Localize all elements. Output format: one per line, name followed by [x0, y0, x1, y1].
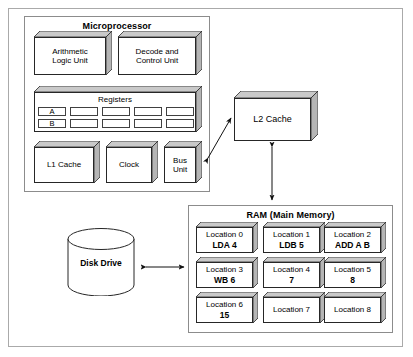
- bus-unit-label-line1: Bus: [171, 156, 189, 165]
- ram-cell[interactable]: Location 4 7: [263, 257, 325, 288]
- decode-control-label-line1: Decode and: [133, 47, 180, 56]
- disk-drive-label: Disk Drive: [67, 258, 135, 268]
- ram-cell-location: Location 8: [332, 305, 373, 314]
- ram-cell-value: 8: [348, 275, 357, 285]
- register-cell[interactable]: [102, 119, 130, 128]
- ram-cell-face: Location 2 ADD A B: [324, 227, 381, 253]
- register-cell[interactable]: [70, 119, 98, 128]
- alu-label-line2: Logic Unit: [50, 56, 90, 65]
- ram-cell-location: Location 0: [204, 230, 245, 239]
- ram-cell[interactable]: Location 6 15: [196, 292, 258, 323]
- l2-cache-label: L2 Cache: [251, 114, 294, 125]
- register-cell-b[interactable]: B: [38, 119, 66, 128]
- ram-cell-location: Location 6: [204, 300, 245, 309]
- ram-cell[interactable]: Location 2 ADD A B: [324, 222, 386, 253]
- ram-cell-value: LDB 5: [277, 240, 306, 250]
- alu-block-face: Arithmetic Logic Unit: [34, 37, 106, 75]
- registers-block: Registers A B: [34, 86, 202, 132]
- register-cell[interactable]: [70, 107, 98, 116]
- register-cell[interactable]: [134, 119, 162, 128]
- bus-unit-block-face: Bus Unit: [164, 147, 196, 183]
- ram-cell-face: Location 1 LDB 5: [263, 227, 320, 253]
- ram-cell-face: Location 4 7: [263, 262, 320, 288]
- l1-cache-block-face: L1 Cache: [34, 147, 94, 183]
- l1-cache-block: L1 Cache: [34, 141, 100, 183]
- ram-cell[interactable]: Location 3 WB 6: [196, 257, 258, 288]
- ram-cell-face: Location 7: [263, 297, 320, 323]
- ram-cell-location: Location 5: [332, 265, 373, 274]
- ram-cell-location: Location 1: [271, 230, 312, 239]
- ram-cell-location: Location 7: [271, 305, 312, 314]
- ram-cell[interactable]: Location 7: [263, 292, 325, 323]
- ram-cell[interactable]: Location 5 8: [324, 257, 386, 288]
- bus-unit-block: Bus Unit: [164, 141, 202, 183]
- ram-cell-value: WB 6: [212, 275, 237, 285]
- ram-cell-value: LDA 4: [210, 240, 238, 250]
- registers-title: Registers: [96, 95, 134, 104]
- disk-drive: Disk Drive: [67, 228, 135, 296]
- ram-cell[interactable]: Location 1 LDB 5: [263, 222, 325, 253]
- ram-cell-face: Location 3 WB 6: [196, 262, 253, 288]
- l2-cache-block-face: L2 Cache: [234, 98, 311, 141]
- ram-cell-value: 15: [218, 310, 231, 320]
- ram-cell[interactable]: Location 8: [324, 292, 386, 323]
- l1-cache-label: L1 Cache: [45, 160, 83, 169]
- l2-cache-block: L2 Cache: [234, 91, 318, 141]
- ram-cell-location: Location 2: [332, 230, 373, 239]
- decode-control-block-face: Decode and Control Unit: [118, 37, 196, 75]
- ram-title: RAM (Main Memory): [189, 210, 392, 220]
- diagram-canvas: Microprocessor Arithmetic Logic Unit Dec…: [0, 0, 413, 357]
- ram-cell-face: Location 5 8: [324, 262, 381, 288]
- ram-cell-face: Location 8: [324, 297, 381, 323]
- register-cell-a[interactable]: A: [38, 107, 66, 116]
- ram-cell-value: ADD A B: [333, 240, 372, 250]
- bus-unit-label-line2: Unit: [171, 165, 189, 174]
- register-cell[interactable]: [166, 119, 194, 128]
- ram-cell-face: Location 0 LDA 4: [196, 227, 253, 253]
- register-cell[interactable]: [166, 107, 194, 116]
- ram-cell-location: Location 4: [271, 265, 312, 274]
- clock-label: Clock: [117, 160, 141, 169]
- ram-cell-value: 7: [287, 275, 296, 285]
- decode-control-block: Decode and Control Unit: [118, 31, 202, 75]
- clock-block-face: Clock: [106, 147, 152, 183]
- ram-cell-face: Location 6 15: [196, 297, 253, 323]
- ram-cell-location: Location 3: [204, 265, 245, 274]
- microprocessor-title: Microprocessor: [25, 21, 209, 31]
- decode-control-label-line2: Control Unit: [134, 56, 180, 65]
- alu-block: Arithmetic Logic Unit: [34, 31, 112, 75]
- ram-cell[interactable]: Location 0 LDA 4: [196, 222, 258, 253]
- alu-label-line1: Arithmetic: [50, 47, 90, 56]
- register-cell[interactable]: [102, 107, 130, 116]
- register-cell[interactable]: [134, 107, 162, 116]
- clock-block: Clock: [106, 141, 158, 183]
